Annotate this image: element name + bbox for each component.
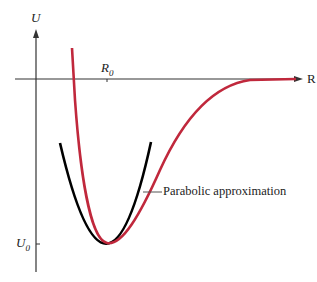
y-axis-arrow-icon [33, 29, 39, 38]
r0-label: R0 [101, 60, 113, 78]
annotation-label: Parabolic approximation [163, 184, 286, 199]
diagram-canvas [0, 0, 317, 282]
y-axis-label: U [31, 10, 40, 26]
u0-sub: 0 [25, 243, 30, 253]
r0-sub: 0 [109, 68, 114, 78]
parabolic-approximation-curve [60, 142, 151, 244]
u0-label: U0 [16, 235, 30, 253]
u0-main: U [16, 235, 25, 250]
r0-main: R [101, 60, 109, 75]
x-axis-label: R [307, 71, 316, 87]
